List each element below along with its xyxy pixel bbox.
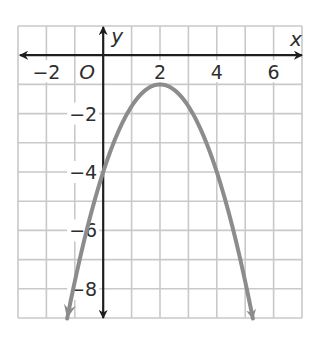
origin-label: O	[79, 60, 95, 84]
parabola-graph: −2246−2−4−6−8 x y O	[0, 0, 323, 346]
tick-labels: −2246−2−4−6−8	[32, 60, 285, 300]
y-axis-label: y	[110, 24, 124, 48]
x-axis-label: x	[289, 27, 302, 51]
y-tick-label: −4	[69, 161, 97, 183]
x-tick-label: 2	[154, 61, 166, 83]
x-tick-label: 6	[268, 61, 280, 83]
x-tick-label: −2	[32, 61, 60, 83]
x-tick-label: 4	[211, 61, 223, 83]
y-tick-label: −2	[69, 103, 97, 125]
